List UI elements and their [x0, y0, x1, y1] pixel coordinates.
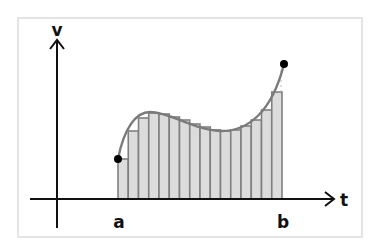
- riemann-rectangle: [241, 126, 251, 199]
- riemann-rectangle: [118, 159, 128, 199]
- riemann-rectangle: [139, 118, 149, 199]
- riemann-rectangle: [272, 92, 282, 199]
- point-b-marker: [280, 60, 288, 68]
- bound-a-label: a: [113, 212, 124, 232]
- riemann-rectangle: [221, 131, 231, 199]
- diagram-canvas: v t a b: [0, 0, 378, 251]
- riemann-rectangle: [251, 120, 261, 199]
- riemann-rectangle: [210, 130, 220, 199]
- riemann-rectangle: [180, 120, 190, 199]
- riemann-rectangle: [200, 127, 210, 199]
- bound-b-label: b: [277, 212, 289, 232]
- riemann-rectangle: [231, 130, 241, 199]
- riemann-sum-figure: v t a b: [0, 0, 378, 251]
- riemann-rectangle: [190, 124, 200, 199]
- riemann-rectangle: [169, 117, 179, 199]
- riemann-rectangle: [262, 110, 272, 199]
- riemann-rectangle: [159, 114, 169, 199]
- x-axis-label: t: [340, 190, 348, 210]
- riemann-rectangle: [149, 113, 159, 199]
- y-axis-label: v: [51, 20, 62, 40]
- riemann-rectangle: [128, 131, 138, 199]
- point-a-marker: [114, 155, 122, 163]
